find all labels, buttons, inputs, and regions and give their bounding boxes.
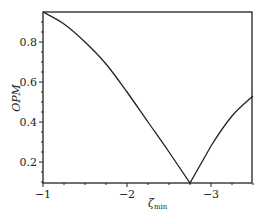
y-tick-label: 0.2 — [20, 156, 38, 169]
x-tick-label: −1 — [35, 188, 51, 201]
chart: 0.20.40.60.8−1−2−3 OPM ζmin — [0, 0, 258, 213]
y-tick-label: 0.8 — [20, 36, 38, 49]
x-axis-label: ζmin — [148, 197, 168, 211]
plot-frame — [43, 12, 252, 183]
x-tick-label: −3 — [203, 188, 219, 201]
y-axis-label: OPM — [10, 83, 23, 111]
y-tick-label: 0.4 — [20, 116, 38, 129]
opm-curve — [43, 12, 253, 183]
x-tick-label: −2 — [119, 188, 135, 201]
